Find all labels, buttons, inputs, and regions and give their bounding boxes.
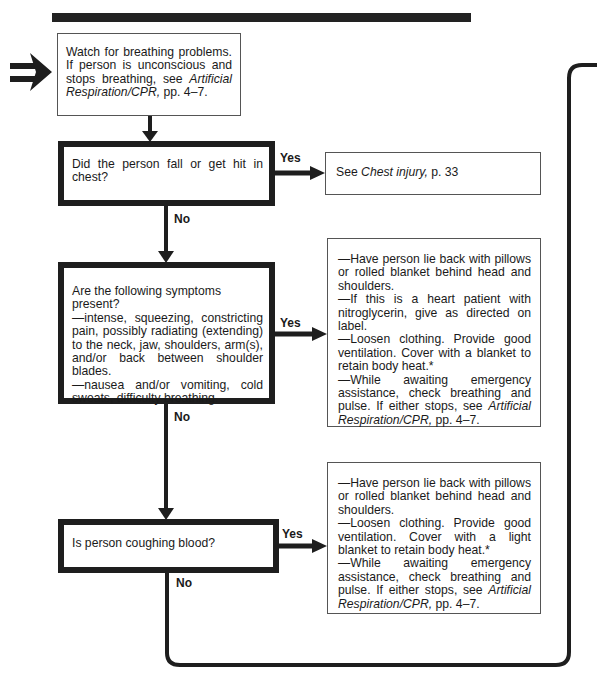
symptoms-intro: Are the following symptoms present?	[72, 285, 263, 312]
symptom-nausea: —nausea and/or vomiting, cold sweats, di…	[72, 379, 263, 406]
no-label: No	[176, 576, 192, 590]
action-loosen-clothing: —Loosen clothing. Provide good ventilati…	[338, 333, 531, 373]
no-label: No	[174, 410, 190, 424]
no-label: No	[174, 212, 190, 226]
action-lie-back: —Have person lie back with pillows or ro…	[338, 253, 531, 293]
action-loosen-clothing: —Loosen clothing. Provide good ventilati…	[338, 517, 531, 557]
start-box: Watch for breathing problems. If person …	[57, 33, 241, 116]
symptom-pain: —intense, squeezing, constricting pain, …	[72, 312, 263, 379]
cpr-pages: pp. 4–7.	[432, 413, 479, 427]
yes-label: Yes	[280, 151, 301, 165]
chest-injury-page: p. 33	[428, 165, 459, 179]
heart-attack-actions-box: —Have person lie back with pillows or ro…	[327, 238, 541, 427]
yes-label: Yes	[280, 316, 301, 330]
action-nitroglycerin: —If this is a heart patient with nitrogl…	[338, 293, 531, 333]
chest-injury-box: See Chest injury, p. 33	[325, 152, 541, 195]
see-text: See	[336, 165, 361, 179]
start-pages: pp. 4–7.	[160, 85, 207, 99]
action-lie-back: —Have person lie back with pillows or ro…	[338, 477, 531, 517]
question-coughing-blood-box: Is person coughing blood?	[58, 519, 279, 573]
chest-injury-reference: Chest injury,	[361, 165, 428, 179]
question-fall-box: Did the person fall or get hit in chest?	[58, 141, 275, 206]
question-coughing-text: Is person coughing blood?	[72, 537, 267, 550]
coughing-blood-actions-box: —Have person lie back with pillows or ro…	[327, 462, 541, 614]
question-fall-text: Did the person fall or get hit in chest?	[72, 158, 263, 185]
question-symptoms-box: Are the following symptoms present? —int…	[58, 262, 275, 404]
yes-label: Yes	[282, 527, 303, 541]
double-right-arrow-icon	[10, 53, 52, 91]
cpr-pages: pp. 4–7.	[432, 597, 479, 611]
